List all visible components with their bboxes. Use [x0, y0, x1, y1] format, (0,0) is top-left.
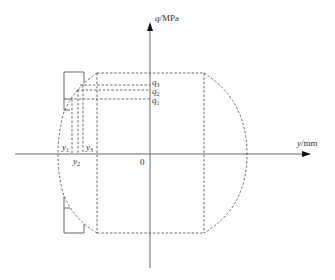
y3-label: y3	[86, 143, 93, 153]
axes	[15, 22, 311, 268]
q-axis-arrow-icon	[147, 22, 153, 31]
y1-label: y1	[62, 143, 69, 153]
y-axis-label: y/mm	[297, 139, 318, 148]
q-axis-label: q/MPa	[155, 14, 179, 23]
origin-label: 0	[140, 158, 145, 167]
y-axis-arrow-icon	[302, 151, 311, 157]
pressure-distribution-diagram	[0, 0, 335, 280]
q1-label: q1	[152, 96, 160, 106]
y2-label: y2	[73, 157, 80, 167]
